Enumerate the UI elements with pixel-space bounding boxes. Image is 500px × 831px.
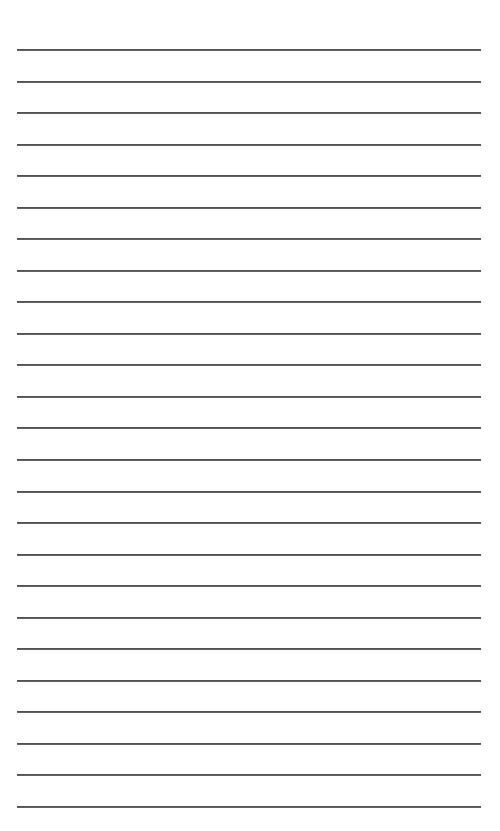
ruled-line	[17, 585, 481, 587]
ruled-line	[17, 774, 481, 776]
ruled-line	[17, 806, 481, 808]
ruled-line	[17, 175, 481, 177]
ruled-line	[17, 617, 481, 619]
ruled-line	[17, 81, 481, 83]
ruled-line	[17, 112, 481, 114]
ruled-line	[17, 49, 481, 51]
ruled-line	[17, 144, 481, 146]
ruled-line	[17, 554, 481, 556]
ruled-line	[17, 301, 481, 303]
ruled-line	[17, 491, 481, 493]
ruled-line	[17, 459, 481, 461]
ruled-line	[17, 743, 481, 745]
ruled-line	[17, 522, 481, 524]
ruled-line	[17, 427, 481, 429]
ruled-line	[17, 680, 481, 682]
ruled-line	[17, 364, 481, 366]
lined-paper-page	[0, 0, 500, 831]
ruled-line	[17, 648, 481, 650]
ruled-line	[17, 270, 481, 272]
ruled-line	[17, 333, 481, 335]
ruled-line	[17, 711, 481, 713]
ruled-line	[17, 238, 481, 240]
ruled-line	[17, 207, 481, 209]
ruled-line	[17, 396, 481, 398]
